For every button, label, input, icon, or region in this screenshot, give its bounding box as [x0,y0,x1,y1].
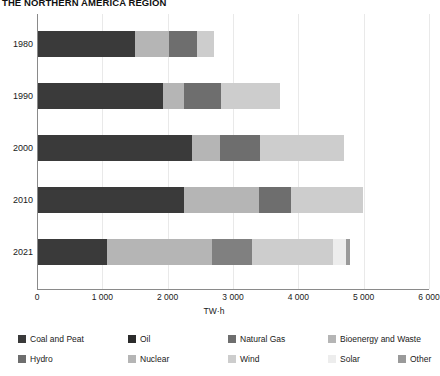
y-axis-line [37,14,38,289]
bar-segment [38,187,184,213]
y-axis-label: 1990 [3,91,33,101]
legend-item[interactable]: Hydro [18,354,53,364]
gridline [364,14,365,289]
legend-item[interactable]: Bioenergy and Waste [328,334,421,344]
legend-item[interactable]: Solar [328,354,360,364]
x-axis-tick-labels: 01 0002 0003 0004 0005 0006 000 [0,292,438,306]
bar-segment [252,239,333,265]
bar-segment [163,83,184,109]
legend-label: Hydro [30,354,53,364]
x-axis-tick: 3 000 [222,292,243,302]
legend-label: Natural Gas [240,334,285,344]
bar-segment [192,135,220,161]
bar-segment [184,187,259,213]
y-axis-label: 2021 [3,247,33,257]
legend-label: Wind [240,354,259,364]
bar-segment [259,187,290,213]
legend-swatch-icon [398,355,406,363]
x-axis-title-text: TW·h [204,306,225,316]
legend-item[interactable]: Natural Gas [228,334,285,344]
y-axis-label: 1980 [3,39,33,49]
legend-item[interactable]: Nuclear [128,354,169,364]
legend-label: Other [410,354,431,364]
bar-segment [212,239,251,265]
x-axis-line [37,289,429,290]
legend-label: Bioenergy and Waste [340,334,421,344]
bar-segment [107,239,212,265]
legend-swatch-icon [228,355,236,363]
bar-segment [220,135,260,161]
plot-area [37,14,429,289]
x-axis-tick: 6 000 [418,292,439,302]
y-axis-label: 2000 [3,143,33,153]
x-axis-tick: 2 000 [157,292,178,302]
bar-segment [169,31,198,57]
x-axis-tick: 0 [35,292,40,302]
legend-label: Coal and Peat [30,334,84,344]
bar-segment [38,239,107,265]
bar-segment [135,31,168,57]
bar-segment [291,187,363,213]
legend-label: Nuclear [140,354,169,364]
legend-label: Oil [140,334,150,344]
x-axis-title: TW·h [0,306,438,316]
bar-segment [184,83,221,109]
bar-segment [346,239,350,265]
legend-swatch-icon [228,335,236,343]
y-axis-category-labels: 19801990200020102021 [0,14,33,289]
legend-item[interactable]: Oil [128,334,150,344]
bar-segment [38,135,192,161]
legend-swatch-icon [18,335,26,343]
bar-segment [38,83,163,109]
legend-label: Solar [340,354,360,364]
x-axis-tick: 4 000 [288,292,309,302]
y-axis-label: 2010 [3,195,33,205]
legend-swatch-icon [128,335,136,343]
legend-swatch-icon [18,355,26,363]
bar-segment [38,31,135,57]
bar-segment [333,239,346,265]
gridline [429,14,430,289]
page-title: THE NORTHERN AMERICA REGION [2,0,167,8]
x-axis-tick: 5 000 [353,292,374,302]
bar-segment [260,135,344,161]
legend-item[interactable]: Other [398,354,431,364]
legend-item[interactable]: Wind [228,354,259,364]
bar-segment [197,31,214,57]
legend-swatch-icon [128,355,136,363]
legend-swatch-icon [328,335,336,343]
bar-segment [221,83,280,109]
x-axis-tick: 1 000 [92,292,113,302]
chart-legend: Coal and PeatOilNatural GasBioenergy and… [0,334,438,374]
legend-item[interactable]: Coal and Peat [18,334,84,344]
legend-swatch-icon [328,355,336,363]
